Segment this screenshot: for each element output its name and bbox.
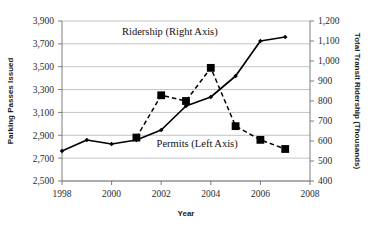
chart-container: 2,5002,7002,9003,1003,3003,5003,7003,900… [0, 0, 368, 233]
data-point-permits [182, 97, 190, 105]
right-tick-label: 700 [318, 116, 333, 126]
x-tick-label: 2002 [152, 189, 171, 199]
x-tick-label: 1998 [53, 189, 72, 199]
left-tick-label: 3,100 [33, 108, 55, 118]
right-tick-label: 600 [318, 136, 333, 146]
right-tick-label: 1,100 [318, 36, 340, 46]
right-tick-label: 900 [318, 76, 333, 86]
left-tick-label: 3,900 [33, 16, 55, 26]
left-tick-label: 3,300 [33, 85, 55, 95]
left-tick-label: 3,700 [33, 39, 55, 49]
right-axis-title: Total Transit Ridership (Thousands) [353, 33, 362, 170]
x-tick-label: 2004 [201, 189, 220, 199]
x-tick-label: 2008 [301, 189, 320, 199]
data-point-permits [157, 91, 165, 99]
data-point-permits [232, 122, 240, 130]
right-tick-label: 400 [318, 176, 333, 186]
series-label-ridership: Ridership (Right Axis) [122, 26, 218, 38]
x-tick-label: 2006 [251, 189, 270, 199]
data-point-permits [133, 134, 141, 142]
x-tick-label: 2000 [102, 189, 121, 199]
right-tick-label: 1,000 [318, 56, 340, 66]
data-point-permits [207, 64, 215, 72]
left-tick-label: 2,500 [33, 176, 55, 186]
left-tick-label: 2,900 [33, 131, 55, 141]
left-tick-label: 3,500 [33, 62, 55, 72]
x-axis-title: Year [178, 209, 195, 218]
line-chart: 2,5002,7002,9003,1003,3003,5003,7003,900… [0, 0, 368, 233]
right-tick-label: 500 [318, 156, 333, 166]
right-tick-label: 1,200 [318, 16, 340, 26]
left-tick-label: 2,700 [33, 154, 55, 164]
right-tick-label: 800 [318, 96, 333, 106]
left-axis-title: Parking Passes Issued [6, 58, 15, 145]
data-point-permits [257, 136, 265, 144]
series-label-permits: Permits (Left Axis) [157, 138, 239, 150]
data-point-permits [281, 145, 289, 153]
